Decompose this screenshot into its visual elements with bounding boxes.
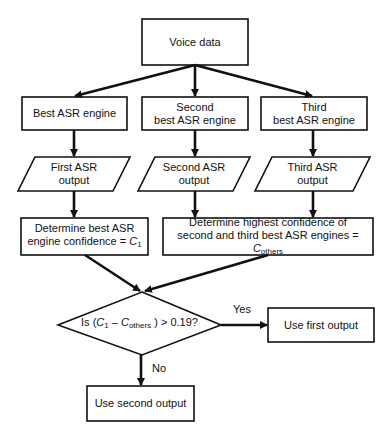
decision-prefix: Is ( xyxy=(81,316,96,328)
third-output-label-2: output xyxy=(297,174,328,187)
node-third-output: Third ASR output xyxy=(255,157,370,191)
node-decision: Is (C1 – Cothers ) > 0.19? xyxy=(58,292,221,355)
determine-best-label-2: engine confidence = C1 xyxy=(27,235,141,251)
best-engine-label: Best ASR engine xyxy=(33,107,116,120)
second-engine-label-2: best ASR engine xyxy=(154,114,236,127)
determine-others-label-2: second and third best ASR engines = Coth… xyxy=(163,229,373,258)
node-determine-others: Determine highest confidence of second a… xyxy=(163,218,373,255)
edge-determine-best-to-decision xyxy=(85,255,140,291)
second-output-label-2: output xyxy=(179,174,210,187)
first-output-label-1: First ASR xyxy=(51,161,97,174)
determine-best-prefix: engine confidence = xyxy=(27,235,129,247)
edge-label-yes: Yes xyxy=(233,303,251,315)
third-engine-label-2: best ASR engine xyxy=(273,114,355,127)
third-engine-label-1: Third xyxy=(301,101,326,114)
var-c: C xyxy=(129,235,137,247)
use-first-label: Use first output xyxy=(284,319,358,332)
voice-data-label: Voice data xyxy=(169,36,220,49)
edge-label-no: No xyxy=(152,362,166,374)
second-output-label-1: Second ASR xyxy=(163,161,225,174)
decision-suffix: ) > 0.19? xyxy=(151,316,198,328)
decision-label: Is (C1 – Cothers ) > 0.19? xyxy=(81,316,198,332)
node-voice-data: Voice data xyxy=(142,19,248,65)
var-c-subscript: 1 xyxy=(137,240,141,249)
var-c: C xyxy=(253,242,261,254)
var-c-subscript: others xyxy=(261,247,283,256)
node-best-engine: Best ASR engine xyxy=(22,97,127,130)
minus-sign: – xyxy=(109,316,121,328)
var-c2-subscript: others xyxy=(129,321,151,330)
third-output-label-1: Third ASR xyxy=(287,161,337,174)
first-output-label-2: output xyxy=(59,174,90,187)
node-second-output: Second ASR output xyxy=(138,157,250,191)
node-use-second: Use second output xyxy=(87,386,194,421)
edge-determine-others-to-decision xyxy=(145,255,268,291)
determine-best-label-1: Determine best ASR xyxy=(35,222,135,235)
var-c2: C xyxy=(121,316,129,328)
edge-voice-to-best xyxy=(75,65,195,96)
node-second-engine: Second best ASR engine xyxy=(142,97,248,130)
determine-others-label-1: Determine highest confidence of xyxy=(189,216,347,229)
node-first-output: First ASR output xyxy=(18,157,130,191)
node-third-engine: Third best ASR engine xyxy=(261,97,367,130)
second-engine-label-1: Second xyxy=(176,101,213,114)
determine-others-prefix: second and third best ASR engines = xyxy=(177,229,358,241)
edge-voice-to-third xyxy=(195,65,312,96)
node-use-first: Use first output xyxy=(268,308,374,342)
use-second-label: Use second output xyxy=(95,397,187,410)
node-determine-best: Determine best ASR engine confidence = C… xyxy=(21,218,148,255)
